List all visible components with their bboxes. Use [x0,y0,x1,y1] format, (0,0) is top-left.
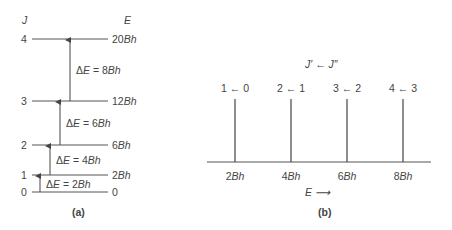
transition-delta-e-label: ΔE = 6Bh [66,117,111,129]
level-j-label: 1 [21,169,27,181]
level-energy-label: 20Bh [112,33,137,45]
level-energy-label: 0 [112,186,118,198]
panel-a-energy-levels: J E (a) 0012Bh26Bh312Bh420BhΔE = 2BhΔE =… [21,14,137,218]
level-energy-label: 2Bh [112,169,131,181]
energy-tick-label: 2Bh [226,170,245,182]
energy-axis-label: E ⟶ [305,186,331,198]
transition-delta-e-label: ΔE = 8Bh [76,64,121,76]
panel-a-caption: (a) [72,206,85,218]
level-j-label: 4 [21,33,27,45]
spectral-line-label: 3 ← 2 [333,82,361,94]
level-j-label: 3 [21,95,27,107]
panel-b-spectrum: J′ ← J″ E ⟶ (b) 1 ← 02Bh2 ← 14Bh3 ← 26Bh… [207,58,431,218]
rotational-energy-diagram: J E (a) 0012Bh26Bh312Bh420BhΔE = 2BhΔE =… [0,0,452,230]
spectral-line-label: 4 ← 3 [389,82,417,94]
spectral-line-label: 1 ← 0 [221,82,249,94]
level-energy-label: 6Bh [112,139,131,151]
level-j-label: 0 [21,186,27,198]
panel-b-caption: (b) [318,206,331,218]
transition-delta-e-label: ΔE = 2Bh [46,178,91,190]
e-column-header: E [124,14,132,26]
j-column-header: J [21,14,28,26]
level-j-label: 2 [21,139,27,151]
energy-tick-label: 8Bh [394,170,413,182]
transition-delta-e-label: ΔE = 4Bh [56,154,101,166]
transition-header: J′ ← J″ [304,58,339,70]
spectral-line-label: 2 ← 1 [277,82,305,94]
level-energy-label: 12Bh [112,95,137,107]
energy-tick-label: 4Bh [282,170,301,182]
energy-tick-label: 6Bh [338,170,357,182]
